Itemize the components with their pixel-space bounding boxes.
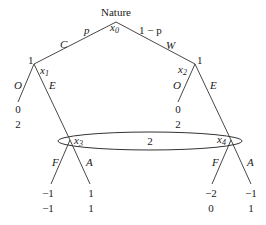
- payoff-x4-F-2: 0: [208, 202, 214, 214]
- payoff-x4-F-1: −2: [205, 187, 217, 199]
- node-x1-label: x1: [39, 64, 49, 78]
- edge-C: [34, 22, 116, 64]
- payoff-x3-A-1: 1: [88, 187, 94, 199]
- node-x4-label: x4: [216, 133, 226, 147]
- action-F-x3-label: F: [51, 156, 59, 168]
- payoff-x4-A-2: 1: [248, 202, 254, 214]
- action-O-left-label: O: [14, 79, 22, 91]
- action-E-right-label: E: [209, 79, 217, 91]
- player-2-label: 2: [147, 135, 153, 147]
- action-O-right-label: O: [173, 79, 181, 91]
- player-1-label-left: 1: [28, 54, 34, 66]
- edge-x2-E: [195, 64, 231, 140]
- payoff-x4-A-1: −1: [245, 187, 257, 199]
- action-F-x4-label: F: [211, 156, 219, 168]
- node-x2-label: x2: [177, 63, 187, 77]
- node-x3-label: x3: [73, 134, 83, 148]
- payoff-right-out-1: 0: [175, 103, 181, 115]
- prob-p-label: p: [83, 24, 90, 36]
- payoff-x3-F-1: −1: [42, 187, 54, 199]
- action-E-left-label: E: [48, 79, 56, 91]
- payoff-right-out-2: 2: [175, 118, 181, 130]
- payoff-x3-A-2: 1: [88, 202, 94, 214]
- payoff-left-out-1: 0: [15, 103, 21, 115]
- player-1-label-right: 1: [197, 54, 203, 66]
- action-W-label: W: [166, 39, 176, 51]
- payoff-x3-F-2: −1: [42, 202, 54, 214]
- nature-label: Nature: [101, 6, 131, 18]
- game-tree: Nature x0 p C 1 − p W 1 x1 O E 0 2 1 x2 …: [0, 0, 266, 225]
- prob-1-minus-p-label: 1 − p: [139, 24, 162, 36]
- action-C-label: C: [60, 38, 68, 50]
- action-A-x3-label: A: [85, 156, 93, 168]
- action-A-x4-label: A: [246, 156, 254, 168]
- payoff-left-out-2: 2: [15, 118, 21, 130]
